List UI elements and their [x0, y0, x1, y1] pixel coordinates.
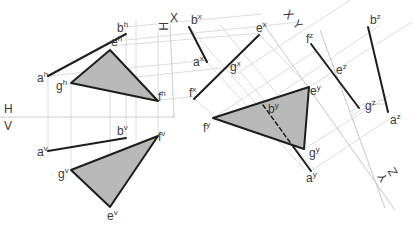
- label-axis-hx-x: X: [170, 11, 178, 25]
- horizontal-view: [48, 34, 158, 101]
- diagram-svg: H V H X X Y Y Z ah bh eh gh fh av bv gv …: [0, 0, 413, 226]
- label-axis-yz-z: Z: [385, 165, 401, 178]
- label-axis-xy-y: Y: [290, 17, 306, 32]
- edge-view-efg-z: [311, 44, 359, 108]
- label-g-y: gy: [309, 145, 320, 160]
- label-e-h: eh: [111, 34, 122, 49]
- label-f-v: fv: [158, 129, 165, 144]
- label-b-h: bh: [117, 20, 128, 35]
- auxiliary-view-y: [213, 87, 311, 171]
- label-g-v: gv: [58, 166, 69, 181]
- label-a-h: ah: [37, 70, 48, 85]
- label-a-v: av: [37, 144, 48, 159]
- line-ab-v: [48, 138, 126, 151]
- label-e-y: ey: [310, 83, 321, 98]
- axis-labels: H V H X X Y Y Z: [4, 7, 401, 185]
- reference-axes: [0, 22, 395, 210]
- triangle-efg-v: [71, 136, 158, 207]
- label-axis-v: V: [4, 119, 12, 133]
- label-e-v: ev: [107, 208, 118, 223]
- descriptive-geometry-diagram: H V H X X Y Y Z ah bh eh gh fh av bv gv …: [0, 0, 413, 226]
- label-a-z: az: [390, 112, 401, 127]
- hx-axis-line: [170, 25, 174, 118]
- label-e-x: ex: [256, 20, 267, 35]
- label-f-y: fy: [203, 120, 210, 135]
- edge-view-efg-x: [194, 35, 259, 99]
- label-g-h: gh: [56, 78, 67, 93]
- label-axis-hx-h: H: [156, 22, 170, 31]
- auxiliary-view-z: [311, 27, 388, 112]
- label-f-z: fz: [306, 31, 313, 46]
- label-f-h: fh: [158, 89, 166, 104]
- label-a-x: ax: [193, 54, 204, 69]
- label-g-z: gz: [365, 98, 376, 113]
- label-e-z: ez: [336, 62, 347, 77]
- label-b-x: bx: [191, 12, 202, 27]
- label-b-z: bz: [370, 12, 381, 27]
- label-axis-xy-x: X: [281, 7, 297, 22]
- label-a-y: ay: [306, 170, 317, 185]
- label-axis-h: H: [4, 102, 13, 116]
